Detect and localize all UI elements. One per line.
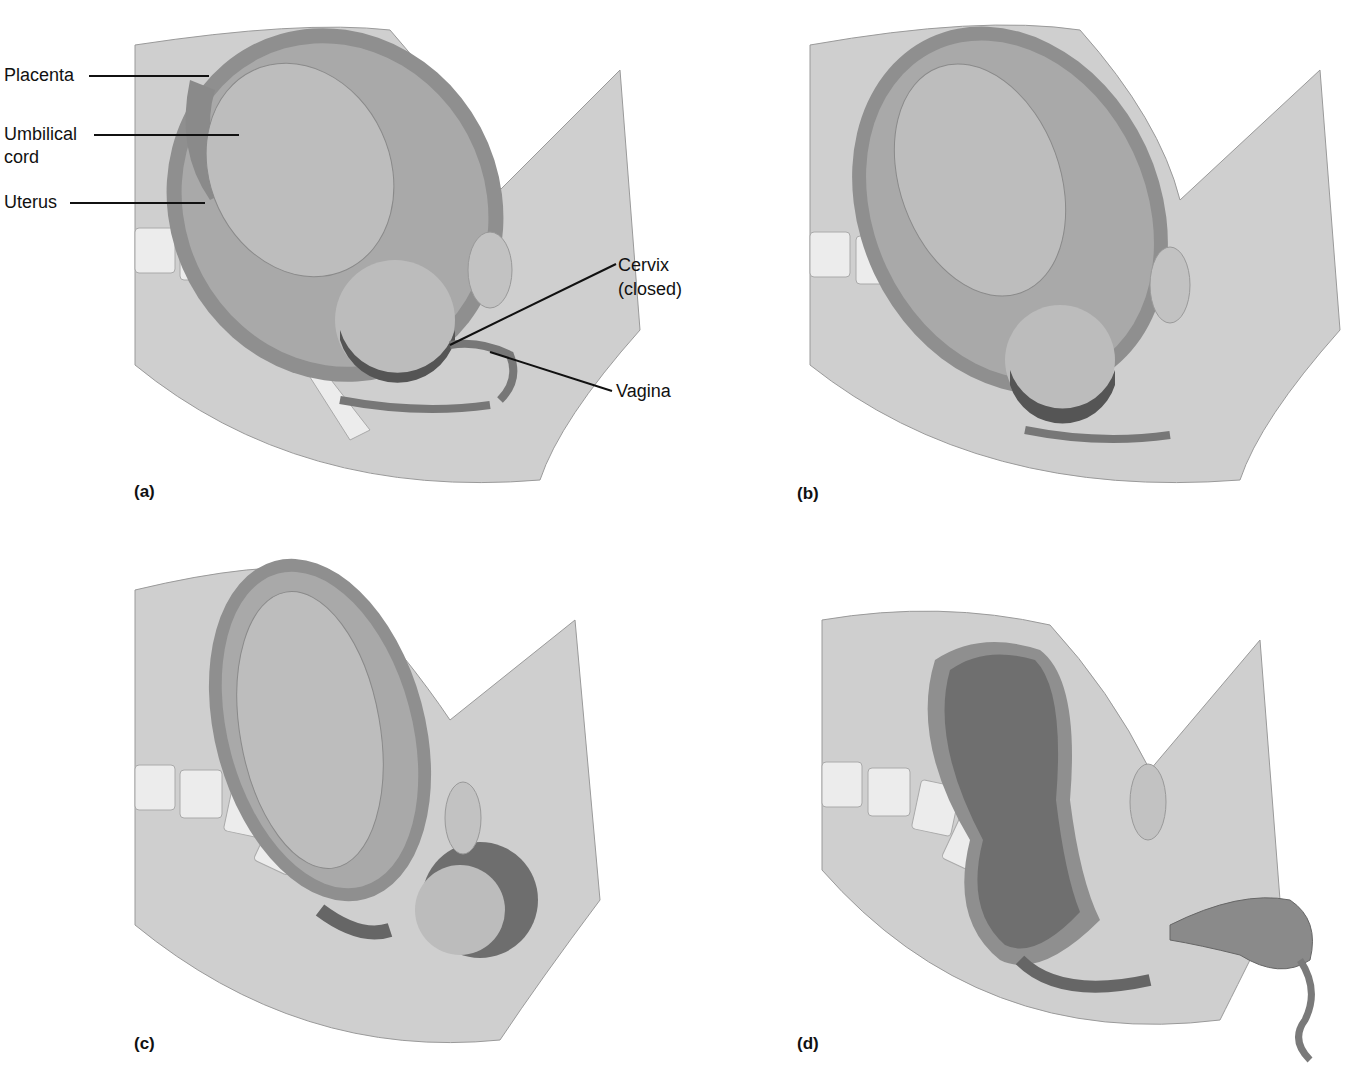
illustration-fetus-descending: [680, 0, 1356, 510]
leader-lines: [0, 0, 690, 510]
label-vagina: Vagina: [616, 380, 671, 402]
panel-label-c: (c): [134, 1034, 155, 1054]
panel-a: Placenta Umbilical cord Uterus Cervix (c…: [0, 0, 690, 510]
panel-label-d: (d): [797, 1034, 819, 1054]
panel-label-a: (a): [134, 482, 155, 502]
panel-label-b: (b): [797, 484, 819, 504]
panel-d: (d): [680, 540, 1356, 1073]
illustration-placenta-delivery: [680, 540, 1356, 1073]
illustration-head-crowning: [0, 540, 690, 1073]
panel-b: (b): [680, 0, 1356, 510]
panel-c: (c): [0, 540, 690, 1073]
